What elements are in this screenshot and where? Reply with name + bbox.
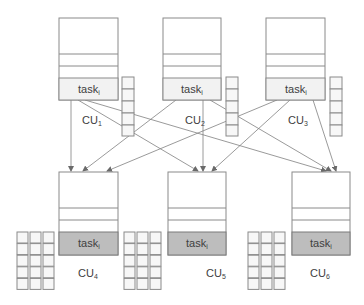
edge-cu1-cu6	[85, 100, 326, 171]
compute-unit-cu1: taski CU1	[59, 18, 134, 136]
unit-label: CU5	[206, 267, 226, 280]
memory-cell	[137, 244, 148, 255]
queue-strip	[226, 77, 238, 136]
memory-cell	[43, 244, 54, 255]
memory-cell	[248, 278, 259, 289]
memory-cell	[17, 244, 28, 255]
memory-cell	[124, 255, 135, 266]
memory-cell	[150, 255, 161, 266]
compute-unit-cu3: taski CU3	[266, 18, 342, 136]
task-label: taski	[285, 83, 307, 96]
memory-grid-cu6	[248, 232, 285, 289]
memory-cell	[274, 255, 285, 266]
unit-label: CU4	[78, 267, 98, 280]
queue-strip	[122, 77, 134, 136]
memory-cell	[43, 278, 54, 289]
memory-cell	[124, 244, 135, 255]
compute-unit-cu5: taski CU5	[168, 172, 226, 280]
task-label: taski	[78, 83, 100, 96]
unit-label: CU2	[185, 114, 205, 127]
memory-cell	[30, 232, 41, 243]
compute-unit-cu4: taski CU4	[59, 172, 118, 280]
edge-cu1-cu5	[78, 100, 198, 171]
memory-cell	[137, 255, 148, 266]
memory-grid-cu5	[124, 232, 161, 289]
task-label: taski	[181, 83, 203, 96]
unit-label: CU1	[82, 114, 102, 127]
compute-unit-cu2: taski CU2	[163, 18, 238, 136]
memory-cell	[124, 267, 135, 278]
memory-grid-cu4	[17, 232, 54, 289]
memory-cell	[150, 267, 161, 278]
memory-cell	[261, 278, 272, 289]
memory-cell	[248, 267, 259, 278]
memory-cell	[150, 244, 161, 255]
memory-cell	[248, 232, 259, 243]
memory-cell	[30, 278, 41, 289]
memory-cell	[17, 267, 28, 278]
memory-cell	[17, 232, 28, 243]
memory-cell	[30, 255, 41, 266]
task-label: taski	[78, 237, 100, 250]
memory-cell	[43, 255, 54, 266]
unit-label: CU6	[310, 267, 330, 280]
memory-cell	[43, 232, 54, 243]
memory-cell	[261, 255, 272, 266]
memory-cell	[274, 278, 285, 289]
memory-cell	[261, 267, 272, 278]
memory-cell	[248, 255, 259, 266]
memory-cell	[17, 278, 28, 289]
memory-cell	[261, 244, 272, 255]
memory-cell	[274, 232, 285, 243]
memory-cell	[248, 244, 259, 255]
edges	[71, 100, 336, 171]
memory-cell	[274, 244, 285, 255]
memory-cell	[124, 232, 135, 243]
task-label: taski	[186, 237, 208, 250]
memory-cell	[17, 255, 28, 266]
diagram-canvas: taski CU1 taski CU2 taski	[0, 0, 364, 305]
memory-cell	[137, 267, 148, 278]
memory-cell	[43, 267, 54, 278]
compute-unit-cu6: taski CU6	[292, 172, 350, 280]
memory-cell	[30, 267, 41, 278]
memory-cell	[150, 278, 161, 289]
memory-cell	[150, 232, 161, 243]
queue-strip	[330, 77, 342, 136]
memory-cell	[30, 244, 41, 255]
unit-label: CU3	[288, 114, 308, 127]
memory-cell	[274, 267, 285, 278]
memory-cell	[137, 232, 148, 243]
memory-cell	[261, 232, 272, 243]
memory-cell	[137, 278, 148, 289]
memory-cell	[124, 278, 135, 289]
task-label: taski	[310, 237, 332, 250]
